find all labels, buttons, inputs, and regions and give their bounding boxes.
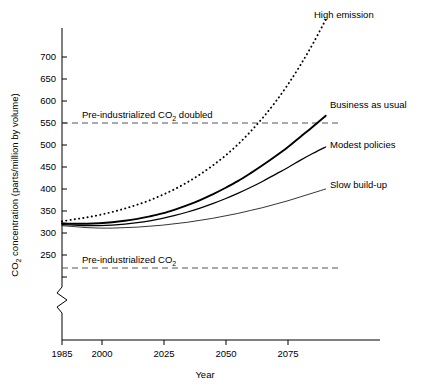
reference-label-doubled-pre: Pre-industrialized CO — [82, 109, 172, 120]
y-tick-marks — [62, 57, 67, 277]
x-axis-title: Year — [195, 369, 214, 380]
y-axis-title: CO2 concentration (parts/million by volu… — [9, 93, 22, 276]
reference-label-preindustrial-subscript: 2 — [172, 260, 176, 267]
reference-label-doubled: Pre-industrialized CO2 doubled — [82, 109, 213, 122]
y-axis-title-post: concentration (parts/million by volume) — [9, 93, 20, 258]
y-tick-label-350: 350 — [40, 205, 56, 216]
y-tick-label-250: 250 — [40, 249, 56, 260]
x-tick-label-1985: 1985 — [51, 348, 72, 359]
y-tick-label-300: 300 — [40, 227, 56, 238]
reference-label-preindustrial-pre: Pre-industrialized CO — [82, 254, 172, 265]
y-axis-title-pre: CO — [9, 262, 20, 276]
x-tick-label-2075: 2075 — [277, 348, 298, 359]
x-tick-labels: 1985 2000 2025 2050 2075 — [51, 348, 298, 359]
x-tick-marks — [62, 340, 288, 345]
y-tick-label-500: 500 — [40, 139, 56, 150]
series-label-high-emission: High emission — [314, 9, 374, 20]
y-axis-break-icon — [57, 287, 67, 313]
reference-label-preindustrial: Pre-industrialized CO2 — [82, 254, 176, 267]
x-tick-label-2000: 2000 — [91, 348, 112, 359]
x-tick-label-2025: 2025 — [153, 348, 174, 359]
series-label-slow-build-up: Slow build-up — [330, 179, 387, 190]
series-label-modest-policies: Modest policies — [330, 139, 396, 150]
y-tick-label-550: 550 — [40, 117, 56, 128]
reference-label-doubled-post: doubled — [176, 109, 212, 120]
y-tick-label-700: 700 — [40, 51, 56, 62]
series-line-high-emission — [62, 20, 326, 221]
svg-text:CO2 concentration (parts/milli: CO2 concentration (parts/million by volu… — [9, 93, 22, 276]
y-tick-labels: 700 650 600 550 500 450 400 350 300 250 — [40, 51, 56, 260]
series-line-modest-policies — [62, 147, 326, 226]
x-tick-label-2050: 2050 — [215, 348, 236, 359]
y-tick-label-400: 400 — [40, 183, 56, 194]
y-tick-label-450: 450 — [40, 161, 56, 172]
y-tick-label-650: 650 — [40, 73, 56, 84]
series-label-business-as-usual: Business as usual — [330, 99, 407, 110]
y-tick-label-600: 600 — [40, 95, 56, 106]
chart-canvas: 700 650 600 550 500 450 400 350 300 250 … — [0, 0, 424, 388]
co2-projection-chart: 700 650 600 550 500 450 400 350 300 250 … — [0, 0, 424, 388]
series-line-business-as-usual — [62, 116, 326, 224]
